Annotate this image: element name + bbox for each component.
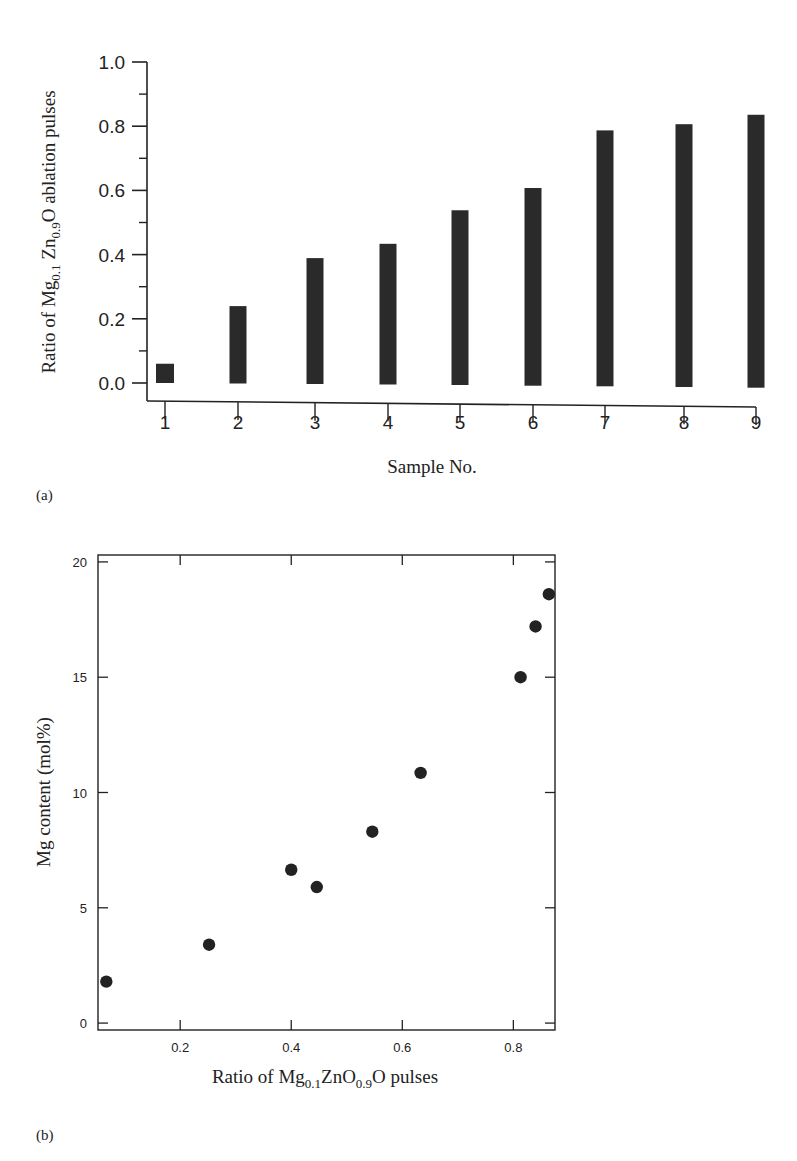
x-tick-label-a: 3 <box>310 412 321 433</box>
data-point <box>285 864 297 876</box>
data-point <box>514 671 526 683</box>
x-tick-label-b: 0.4 <box>282 1040 300 1055</box>
x-tick-label-a: 7 <box>600 412 611 433</box>
bar-sample-5 <box>452 210 469 385</box>
bar-sample-1 <box>156 364 174 383</box>
y-tick-label-b: 15 <box>73 670 87 685</box>
bar-sample-2 <box>230 306 247 383</box>
y-tick-label-a: 1.0 <box>99 52 125 73</box>
y-tick-label-a: 0.8 <box>99 116 125 137</box>
y-tick-label-b: 5 <box>80 901 87 916</box>
x-tick-label-b: 0.8 <box>504 1040 522 1055</box>
figure: 0.00.20.40.60.81.0 123456789 Sample No. … <box>0 0 797 1161</box>
bar-sample-3 <box>307 258 324 384</box>
y-tick-label-b: 10 <box>73 786 87 801</box>
data-point <box>414 767 426 779</box>
x-axis-title-a: Sample No. <box>387 456 477 477</box>
y-tick-label-a: 0.2 <box>99 309 125 330</box>
data-point <box>366 825 378 837</box>
panel-label-b: (b) <box>36 1127 54 1144</box>
x-tick-label-b: 0.2 <box>171 1040 189 1055</box>
y-tick-label-a: 0.6 <box>99 180 125 201</box>
bar-sample-9 <box>748 115 765 388</box>
x-tick-label-a: 4 <box>383 412 394 433</box>
x-tick-label-a: 5 <box>455 412 466 433</box>
x-tick-label-a: 1 <box>160 412 171 433</box>
x-axis-title-b: Ratio of Mg0.1ZnO0.9O pulses <box>212 1066 438 1091</box>
plot-frame-b <box>98 555 555 1030</box>
x-tick-label-a: 2 <box>233 412 244 433</box>
data-point <box>543 588 555 600</box>
y-tick-label-a: 0.0 <box>99 373 125 394</box>
bar-chart-panel-a: 0.00.20.40.60.81.0 123456789 Sample No. … <box>36 52 765 504</box>
scatter-chart-panel-b: 05101520 0.20.40.60.8 Ratio of Mg0.1ZnO0… <box>33 555 555 1144</box>
x-tick-label-a: 9 <box>751 412 762 433</box>
y-tick-label-a: 0.4 <box>99 245 126 266</box>
bar-sample-7 <box>597 130 614 386</box>
y-axis-title-b: Mg content (mol%) <box>33 717 55 867</box>
x-tick-label-b: 0.6 <box>393 1040 411 1055</box>
data-point <box>311 881 323 893</box>
data-point <box>203 938 215 950</box>
bar-sample-4 <box>380 244 397 385</box>
data-point <box>529 620 541 632</box>
bar-sample-6 <box>525 188 542 386</box>
bar-sample-8 <box>676 124 693 387</box>
y-tick-label-b: 20 <box>73 555 87 570</box>
panel-label-a: (a) <box>36 487 53 504</box>
y-tick-label-b: 0 <box>80 1016 87 1031</box>
data-point <box>100 975 112 987</box>
x-tick-label-a: 6 <box>528 412 539 433</box>
x-tick-label-a: 8 <box>679 412 690 433</box>
y-axis-title-a: Ratio of Mg0.1 Zn0.9O ablation pulses <box>38 90 63 373</box>
